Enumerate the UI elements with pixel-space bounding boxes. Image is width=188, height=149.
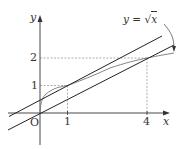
origin-label: O <box>30 117 39 128</box>
sqrt-curve <box>40 53 174 113</box>
curve-equation-label: y = √x <box>123 14 157 25</box>
y-tick-label-1: 1 <box>31 80 38 91</box>
eq-sign: = <box>129 13 144 25</box>
dashed-guides <box>40 58 147 113</box>
eq-arg: x <box>151 11 157 25</box>
tangent-line <box>9 36 162 117</box>
diagram-canvas <box>0 0 188 149</box>
y-axis-arrow-icon <box>38 15 43 22</box>
y-tick-label-2: 2 <box>30 52 37 63</box>
y-axis-label: y <box>30 12 36 23</box>
pointer-arrowhead-icon <box>172 46 176 52</box>
label-pointer <box>164 24 174 48</box>
x-tick-label-4: 4 <box>143 116 150 127</box>
x-axis-label: x <box>163 116 169 127</box>
x-tick-label-1: 1 <box>64 116 71 127</box>
